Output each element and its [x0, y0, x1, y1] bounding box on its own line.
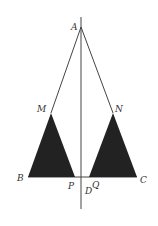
label-B: B — [16, 173, 24, 183]
label-D: D — [84, 186, 92, 196]
label-N: N — [114, 104, 124, 114]
shaded-triangle-BMP — [28, 113, 75, 177]
label-Q: Q — [92, 180, 100, 190]
segment-AM — [51, 27, 81, 113]
label-A: A — [70, 22, 78, 32]
label-C: C — [140, 175, 147, 185]
label-M: M — [36, 104, 47, 114]
shaded-triangle-QNC — [89, 113, 137, 177]
label-P: P — [67, 181, 75, 191]
geometry-diagram: A M N B P Q C D — [0, 0, 158, 226]
segment-AN — [81, 27, 113, 113]
